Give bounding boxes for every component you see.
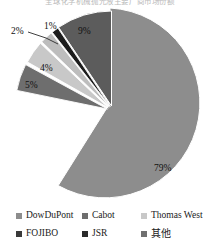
legend-label: Cabot — [92, 211, 115, 221]
legend-swatch-icon — [82, 213, 88, 219]
legend-item-jsr[interactable]: JSR — [82, 225, 141, 242]
legend-swatch-icon — [16, 213, 22, 219]
legend-row-1: DowDuPont Cabot Thomas West — [0, 207, 220, 224]
legend-swatch-icon — [141, 231, 147, 237]
slice-label-fojibo: 2% — [11, 26, 24, 36]
slice-label-cabot: 5% — [25, 80, 38, 90]
pie-svg — [0, 5, 220, 205]
legend-swatch-icon — [16, 231, 22, 237]
legend-item-cabot[interactable]: Cabot — [82, 207, 141, 224]
legend-item-fojibo[interactable]: FOJIBO — [0, 225, 82, 242]
pie-plot-area: 9% 1% 2% 4% 5% 79% — [0, 5, 220, 205]
legend-label: Thomas West — [151, 211, 203, 221]
legend-swatch-icon — [141, 213, 147, 219]
pie-chart-figure: 全球化学机械抛光液主要厂商市场份额 9% 1% 2% 4% 5% 79% — [0, 0, 220, 248]
legend-item-other[interactable]: 其他 — [141, 225, 220, 242]
legend-label: JSR — [92, 229, 107, 239]
legend-label: DowDuPont — [26, 211, 74, 221]
legend-label: 其他 — [151, 229, 171, 239]
slice-label-thomas-west: 4% — [40, 63, 53, 73]
slice-label-jsr: 1% — [44, 21, 57, 31]
legend-item-dowdupont[interactable]: DowDuPont — [0, 207, 82, 224]
legend-label: FOJIBO — [26, 229, 58, 239]
slice-label-dowdupont: 79% — [154, 163, 171, 173]
legend-item-thomas-west[interactable]: Thomas West — [141, 207, 220, 224]
legend-swatch-icon — [82, 231, 88, 237]
legend-row-2: FOJIBO JSR 其他 — [0, 225, 220, 242]
slice-label-other: 9% — [78, 26, 91, 36]
chart-legend: DowDuPont Cabot Thomas West FOJIBO JSR — [0, 205, 220, 248]
